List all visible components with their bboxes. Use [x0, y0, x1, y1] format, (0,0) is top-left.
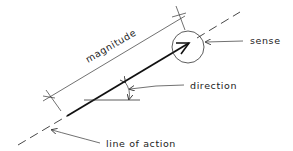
sense-leader	[206, 41, 243, 42]
sense-label: sense	[250, 35, 281, 46]
magnitude-label: magnitude	[84, 27, 139, 65]
line-of-action-label: line of action	[106, 138, 176, 149]
line-of-action-leader	[52, 130, 100, 143]
direction-angle	[84, 82, 140, 100]
direction-label: direction	[190, 80, 237, 91]
direction-leader	[130, 85, 184, 89]
force-vector-diagram: magnitude sense direction line of action	[0, 0, 293, 151]
sense-circle	[172, 31, 204, 63]
